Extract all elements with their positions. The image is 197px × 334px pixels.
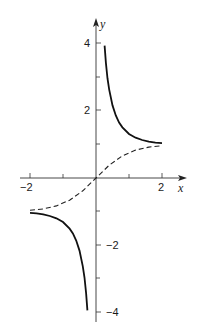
y-tick-label-2: 2 (84, 104, 90, 116)
x-tick-label-2: 2 (158, 181, 164, 193)
y-tick-label-neg2: −2 (106, 239, 119, 251)
x-tick-label-neg2: −2 (20, 181, 33, 193)
y-tick-label-4: 4 (84, 37, 90, 49)
chart-canvas: −2 2 4 2 −2 −4 x y (0, 0, 197, 334)
y-axis-label: y (99, 17, 106, 31)
coth-curve-positive-branch (105, 46, 162, 144)
hyperbolic-functions-chart: −2 2 4 2 −2 −4 x y (0, 0, 197, 334)
x-axis-label: x (177, 181, 184, 195)
coth-curve-negative-branch (30, 213, 87, 311)
y-tick-label-neg4: −4 (106, 306, 119, 318)
